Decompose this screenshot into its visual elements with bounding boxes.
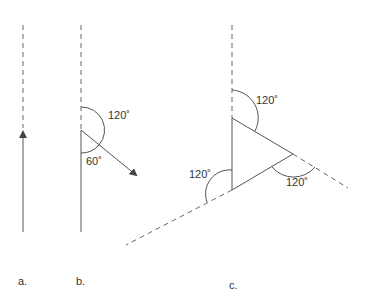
panel-label-a: a. <box>18 275 27 287</box>
panel-label-b: b. <box>76 275 85 287</box>
angle-label-c-top: 120˚ <box>256 94 278 106</box>
angle-label-c-right: 120˚ <box>286 176 308 188</box>
angle-label-c-left: 120˚ <box>189 168 211 180</box>
panel-label-c: c. <box>229 279 238 291</box>
panel-c-figure <box>126 25 348 245</box>
panel-b-figure <box>81 25 136 232</box>
diagram-graphics <box>0 0 366 303</box>
angle-label-b-120: 120˚ <box>108 109 130 121</box>
angle-label-b-60: 60˚ <box>86 155 102 167</box>
diagram-canvas: 120˚ 60˚ 120˚ 120˚ 120˚ a. b. c. <box>0 0 366 303</box>
